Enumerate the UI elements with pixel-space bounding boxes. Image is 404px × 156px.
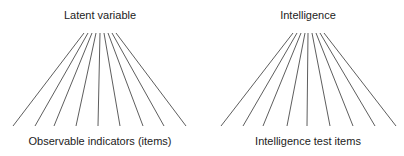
latent-variable-label: Latent variable	[64, 9, 136, 21]
diagram-lines	[0, 0, 404, 156]
indicator-line	[98, 33, 100, 126]
indicator-line	[35, 33, 88, 126]
indicator-line	[307, 33, 308, 126]
indicator-line	[104, 33, 120, 126]
intelligence-label: Intelligence	[280, 9, 336, 21]
indicator-line	[116, 33, 186, 126]
indicator-line	[312, 33, 330, 126]
intelligence-test-items-label: Intelligence test items	[255, 135, 361, 147]
indicator-line	[287, 33, 305, 126]
indicator-line	[243, 33, 297, 126]
observable-indicators-label: Observable indicators (items)	[28, 135, 171, 147]
